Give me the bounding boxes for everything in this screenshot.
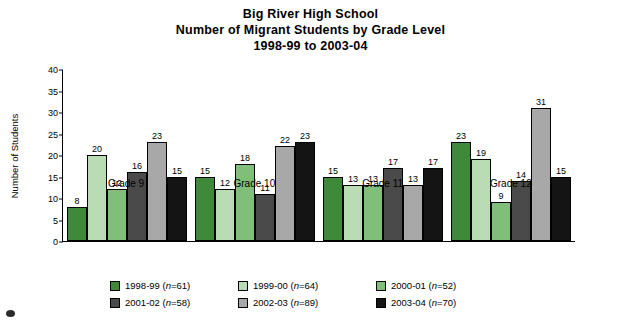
bar: 16	[127, 172, 147, 241]
bar: 13	[343, 185, 363, 241]
bar: 23	[147, 142, 167, 241]
bar-value-label: 23	[152, 131, 162, 142]
y-axis-label-wrap: Number of Students	[8, 70, 22, 242]
bar-value-label: 20	[92, 144, 102, 155]
bar-value-label: 17	[388, 157, 398, 168]
scan-artifact	[6, 310, 15, 317]
legend-item[interactable]: 2000-01 (n=52)	[376, 280, 506, 291]
bar-group: 151313171317	[319, 70, 447, 241]
y-tick-label: 15	[48, 173, 58, 182]
chart-legend: 1998-99 (n=61)1999-00 (n=64)2000-01 (n=5…	[110, 277, 510, 311]
bar: 8	[67, 207, 87, 241]
bar: 11	[255, 194, 275, 241]
legend-item[interactable]: 2001-02 (n=58)	[110, 297, 238, 308]
legend-swatch	[238, 298, 248, 308]
bar-value-label: 9	[498, 191, 503, 202]
legend-label: 1999-00 (n=64)	[253, 280, 318, 291]
bar: 12	[215, 189, 235, 241]
bar: 22	[275, 146, 295, 241]
bar: 15	[551, 177, 571, 242]
legend-item[interactable]: 1999-00 (n=64)	[238, 280, 376, 291]
legend-item[interactable]: 2003-04 (n=70)	[376, 297, 506, 308]
y-tick-label: 10	[48, 195, 58, 204]
legend-label: 2002-03 (n=89)	[253, 297, 318, 308]
legend-label: 2001-02 (n=58)	[125, 297, 190, 308]
bar: 31	[531, 108, 551, 241]
bar: 23	[295, 142, 315, 241]
legend-swatch	[376, 298, 386, 308]
bar: 17	[423, 168, 443, 241]
y-tick-label: 30	[48, 109, 58, 118]
legend-label: 2000-01 (n=52)	[391, 280, 456, 291]
legend-item[interactable]: 2002-03 (n=89)	[238, 297, 376, 308]
plot-area: 0510152025303540 82012162315151218112223…	[62, 70, 575, 242]
bar-value-label: 23	[300, 131, 310, 142]
title-line-2: Number of Migrant Students by Grade Leve…	[0, 22, 621, 38]
legend-label: 1998-99 (n=61)	[125, 280, 190, 291]
bar: 15	[167, 177, 187, 242]
legend-item[interactable]: 1998-99 (n=61)	[110, 280, 238, 291]
bar: 12	[107, 189, 127, 241]
legend-swatch	[110, 298, 120, 308]
y-tick-label: 20	[48, 152, 58, 161]
bar: 17	[383, 168, 403, 241]
title-line-3: 1998-99 to 2003-04	[0, 38, 621, 54]
bar: 23	[451, 142, 471, 241]
y-tick-label: 0	[53, 238, 58, 247]
legend-swatch	[110, 281, 120, 291]
y-axis-label: Number of Students	[8, 70, 22, 242]
bar-value-label: 15	[328, 166, 338, 177]
bar-value-label: 13	[368, 174, 378, 185]
bar-value-label: 12	[220, 178, 230, 189]
bar-value-label: 23	[456, 131, 466, 142]
bar-value-label: 16	[132, 161, 142, 172]
legend-swatch	[376, 281, 386, 291]
bar-value-label: 19	[476, 148, 486, 159]
bar-value-label: 17	[428, 157, 438, 168]
bar-value-label: 15	[172, 166, 182, 177]
bar: 20	[87, 155, 107, 241]
y-tick-label: 5	[53, 216, 58, 225]
bar-group: 82012162315	[63, 70, 191, 241]
bar-group: 151218112223	[191, 70, 319, 241]
bar-value-label: 15	[200, 166, 210, 177]
bar: 13	[403, 185, 423, 241]
bar: 19	[471, 159, 491, 241]
bar-value-label: 22	[280, 135, 290, 146]
legend-label: 2003-04 (n=70)	[391, 297, 456, 308]
bar-value-label: 14	[516, 170, 526, 181]
bar-value-label: 31	[536, 97, 546, 108]
y-tick-label: 40	[48, 66, 58, 75]
title-line-1: Big River High School	[0, 6, 621, 22]
chart-title: Big River High School Number of Migrant …	[0, 6, 621, 54]
bar-value-label: 8	[74, 196, 79, 207]
bar: 15	[323, 177, 343, 242]
bar-value-label: 13	[348, 174, 358, 185]
bar-value-label: 15	[556, 166, 566, 177]
bar-groups: 8201216231515121811222315131317131723199…	[63, 70, 575, 241]
bar: 9	[491, 202, 511, 241]
y-tick-label: 35	[48, 87, 58, 96]
y-tick-label: 25	[48, 130, 58, 139]
bar: 15	[195, 177, 215, 242]
bar-value-label: 12	[112, 178, 122, 189]
legend-swatch	[238, 281, 248, 291]
bar-value-label: 11	[260, 183, 269, 194]
bar: 14	[511, 181, 531, 241]
bar-group: 23199143115	[447, 70, 575, 241]
bar: 13	[363, 185, 383, 241]
bar-value-label: 18	[240, 153, 250, 164]
bar-value-label: 13	[408, 174, 418, 185]
bar: 18	[235, 164, 255, 241]
chart-container: Big River High School Number of Migrant …	[0, 0, 621, 330]
y-tick-mark	[59, 242, 63, 243]
